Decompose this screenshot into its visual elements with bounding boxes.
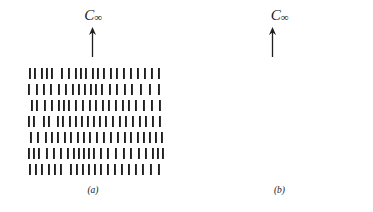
mesogen-rod (123, 68, 125, 79)
mesogen-rod (162, 148, 164, 159)
mesogen-rod (85, 68, 87, 79)
mesogen-rod (105, 116, 107, 127)
panel-a: C∞ (a) (0, 0, 186, 212)
mesogen-rod (124, 84, 126, 95)
mesogen-rod (115, 148, 117, 159)
mesogen-rod (110, 132, 112, 143)
mesogen-rod (61, 68, 63, 79)
panel-b-axis-label-main: C (271, 7, 281, 23)
panel-a-caption: (a) (0, 186, 186, 196)
mesogen-rod (68, 100, 70, 111)
mesogen-row (28, 148, 164, 159)
mesogen-rod (88, 164, 90, 175)
mesogen-rod (62, 116, 64, 127)
mesogen-rod (109, 84, 111, 95)
mesogen-rod (72, 84, 74, 95)
mesogen-rod (115, 100, 117, 111)
mesogen-rod (135, 100, 137, 111)
mesogen-rod (84, 84, 86, 95)
mesogen-rod (75, 100, 77, 111)
mesogen-rod (149, 84, 151, 95)
mesogen-rod (145, 116, 147, 127)
mesogen-rod (46, 68, 48, 79)
mesogen-rod (58, 100, 60, 111)
mesogen-rod (137, 132, 139, 143)
mesogen-rod (70, 132, 72, 143)
mesogen-rod (100, 164, 102, 175)
mesogen-rod (151, 100, 153, 111)
mesogen-rod (112, 116, 114, 127)
mesogen-rod (155, 132, 157, 143)
mesogen-rod (36, 84, 38, 95)
mesogen-rod (159, 100, 161, 111)
mesogen-rod (130, 132, 132, 143)
mesogen-rod (43, 84, 45, 95)
mesogen-rod (77, 132, 79, 143)
mesogen-row (29, 164, 160, 175)
mesogen-rod (122, 100, 124, 111)
mesogen-rod (124, 132, 126, 143)
mesogen-rod (142, 164, 144, 175)
liquid-crystal-phase-figure: C∞ (a) C∞ (b) (0, 0, 373, 212)
mesogen-rod (130, 68, 132, 79)
mesogen-rod (45, 132, 47, 143)
mesogen-rod (159, 116, 161, 127)
mesogen-rod (145, 148, 147, 159)
panel-b-symmetry-axis-label: C∞ (186, 8, 373, 23)
mesogen-rod (97, 68, 99, 79)
mesogen-rod (128, 100, 130, 111)
panel-a-axis-label-subscript: ∞ (94, 11, 101, 23)
mesogen-rod (70, 164, 72, 175)
mesogen-rod (161, 132, 163, 143)
panel-a-mesogen-field (27, 64, 164, 177)
mesogen-rod (114, 164, 116, 175)
mesogen-rod (125, 116, 127, 127)
mesogen-rod (33, 148, 35, 159)
mesogen-rod (144, 68, 146, 79)
mesogen-rod (158, 164, 160, 175)
mesogen-rod (57, 132, 59, 143)
mesogen-rod (44, 100, 46, 111)
mesogen-row (28, 84, 160, 95)
mesogen-row (31, 100, 161, 111)
panel-b-axis-label-subscript: ∞ (281, 11, 288, 23)
mesogen-rod (152, 148, 154, 159)
mesogen-rod (57, 116, 59, 127)
mesogen-rod (158, 68, 160, 79)
mesogen-rod (51, 68, 53, 79)
mesogen-rod (53, 148, 55, 159)
mesogen-rod (36, 100, 38, 111)
mesogen-rod (108, 100, 110, 111)
mesogen-rod (116, 68, 118, 79)
mesogen-rod (51, 100, 53, 111)
mesogen-rod (82, 100, 84, 111)
panel-b-caption: (b) (186, 186, 373, 196)
mesogen-rod (151, 68, 153, 79)
mesogen-rod (64, 132, 66, 143)
mesogen-rod (65, 84, 67, 95)
mesogen-rod (94, 164, 96, 175)
mesogen-rod (99, 116, 101, 127)
mesogen-rod (96, 132, 98, 143)
mesogen-rod (76, 164, 78, 175)
mesogen-rod (78, 148, 80, 159)
mesogen-rod (90, 84, 92, 95)
mesogen-rod (95, 84, 97, 95)
mesogen-rod (88, 148, 90, 159)
mesogen-rod (143, 132, 145, 143)
panel-b-director-arrow-up-icon (267, 27, 278, 57)
mesogen-rod (93, 116, 95, 127)
mesogen-rod (28, 116, 30, 127)
mesogen-rod (138, 148, 140, 159)
mesogen-rod (41, 68, 43, 79)
mesogen-rod (89, 100, 91, 111)
mesogen-rod (137, 68, 139, 79)
mesogen-rod (128, 164, 130, 175)
mesogen-rod (60, 164, 62, 175)
mesogen-rod (28, 148, 30, 159)
mesogen-rod (48, 164, 50, 175)
mesogen-rod (29, 164, 31, 175)
mesogen-rod (93, 148, 95, 159)
mesogen-rod (37, 132, 39, 143)
mesogen-rod (29, 68, 31, 79)
